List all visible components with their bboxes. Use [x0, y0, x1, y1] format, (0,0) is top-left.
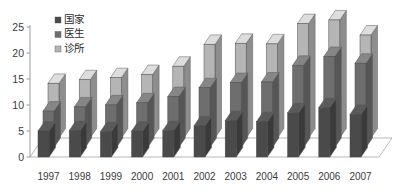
y-tick-label: 15 — [12, 73, 24, 85]
bar-2007-series0 — [350, 105, 368, 157]
legend-label: 国家 — [64, 13, 85, 25]
x-tick-label: 2003 — [225, 171, 248, 182]
legend-label: 医生 — [64, 27, 84, 39]
x-tick-label: 1998 — [69, 171, 92, 182]
x-tick-label: 2002 — [193, 171, 216, 182]
x-tick-label: 2001 — [162, 171, 185, 182]
x-tick-label: 2004 — [256, 171, 279, 182]
x-tick-label: 2005 — [287, 171, 310, 182]
bar-2002-series0 — [194, 116, 212, 157]
bar-2000-series0 — [132, 122, 150, 158]
chart-axis: 0510152025 — [12, 21, 30, 163]
y-tick-label: 0 — [18, 151, 24, 163]
bar-2004-series0 — [256, 112, 274, 157]
chart-canvas: 0510152025 19971998199920002001200220032… — [0, 0, 408, 192]
y-tick-label: 25 — [12, 21, 24, 33]
bar-2003-series0 — [225, 111, 243, 157]
x-tick-label: 2006 — [318, 171, 341, 182]
bar-2001-series0 — [163, 121, 181, 157]
legend-swatch — [55, 46, 61, 52]
chart-legend: 国家医生诊所 — [55, 13, 85, 54]
bar-chart: 0510152025 19971998199920002001200220032… — [0, 0, 408, 192]
y-tick-label: 10 — [12, 99, 24, 111]
chart-bars — [38, 10, 378, 157]
legend-label: 诊所 — [64, 42, 85, 54]
bar-1997-series0 — [38, 122, 56, 158]
x-tick-label: 2000 — [131, 171, 154, 182]
bar-2006-series0 — [319, 98, 337, 157]
x-tick-label: 1997 — [37, 171, 60, 182]
legend-swatch — [55, 32, 61, 38]
legend-swatch — [55, 17, 61, 23]
bar-2005-series0 — [288, 103, 306, 157]
x-tick-label: 2007 — [349, 171, 372, 182]
x-axis-labels: 1997199819992000200120022003200420052006… — [37, 171, 372, 182]
y-tick-label: 20 — [12, 47, 24, 59]
x-tick-label: 1999 — [100, 171, 123, 182]
y-tick-label: 5 — [18, 125, 24, 137]
bar-1998-series0 — [69, 121, 87, 157]
bar-1999-series0 — [100, 122, 118, 157]
